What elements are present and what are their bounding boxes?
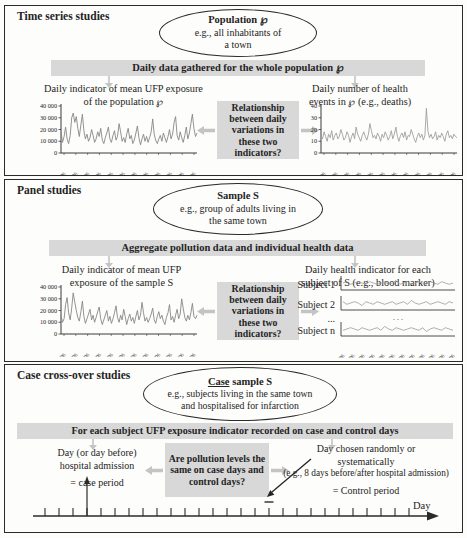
svg-text:30: 30 <box>311 114 317 121</box>
left-arrow-icon <box>196 306 216 317</box>
relationship-question-box: Relationship between daily variations in… <box>217 282 299 340</box>
svg-text:01/01/06: 01/01/06 <box>309 170 327 176</box>
svg-text:10: 10 <box>311 137 317 144</box>
population-ellipse: Population ℘ e.g., all inhabitants of a … <box>159 9 317 57</box>
svg-text:01/01/06: 01/01/06 <box>49 351 67 357</box>
svg-text:01/01/06: 01/01/06 <box>328 352 346 358</box>
svg-text:40 000: 40 000 <box>40 102 57 109</box>
ellipse-title: Population ℘ <box>160 14 316 27</box>
relationship-question-box: Relationship between daily variations in… <box>217 101 299 159</box>
ellipse-title: Case sample S <box>144 376 336 389</box>
svg-text:10 000: 10 000 <box>40 318 57 325</box>
svg-text:. . .: . . . <box>393 313 403 322</box>
panel-studies-section: Panel studies Sample S e.g., group of ad… <box>4 179 463 362</box>
svg-text:01/01/06: 01/01/06 <box>49 170 67 176</box>
ellipse-line: e.g., all inhabitants of <box>160 27 316 39</box>
section-title: Case cross-over studies <box>17 369 130 381</box>
svg-text:0: 0 <box>314 149 317 156</box>
day-timeline: Day <box>27 471 451 525</box>
svg-text:30 000: 30 000 <box>40 295 57 302</box>
subject-indicators-chart: Subject 1Subject 2.... . .Subject n01/01… <box>289 272 459 358</box>
aggregate-data-bar: Aggregate pollution data and individual … <box>49 240 426 256</box>
svg-text:40 000: 40 000 <box>40 283 57 290</box>
ellipse-line: e.g., group of adults living in <box>154 203 322 215</box>
data-gathered-bar: Daily data gathered for the whole popula… <box>51 60 425 76</box>
svg-text:20 000: 20 000 <box>40 307 57 314</box>
health-events-chart: 01020304001/01/0601/02/0601/03/0601/04/0… <box>303 102 461 176</box>
svg-text:0: 0 <box>54 330 57 337</box>
left-arrow-icon <box>196 125 216 136</box>
ellipse-title: Sample S <box>154 190 322 203</box>
svg-text:30 000: 30 000 <box>40 114 57 121</box>
ellipse-line: a town <box>160 39 316 51</box>
section-title: Time series studies <box>17 10 109 22</box>
svg-text:40: 40 <box>311 102 317 109</box>
ufp-exposure-chart: 010 00020 00030 00040 00001/01/0601/02/0… <box>29 102 201 176</box>
section-title: Panel studies <box>17 184 81 196</box>
svg-text:Subject 2: Subject 2 <box>298 299 336 310</box>
ellipse-line: the same town <box>154 215 322 227</box>
svg-text:20 000: 20 000 <box>40 126 57 133</box>
svg-text:0: 0 <box>54 149 57 156</box>
svg-text:Subject n: Subject n <box>298 325 336 336</box>
sample-ufp-chart: 010 00020 00030 00040 00001/01/0601/02/0… <box>29 283 201 357</box>
case-control-bar: For each subject UFP exposure indicator … <box>17 423 453 439</box>
svg-text:10 000: 10 000 <box>40 137 57 144</box>
svg-text:Day: Day <box>413 500 431 511</box>
sample-ellipse: Sample S e.g., group of adults living in… <box>153 183 323 235</box>
ellipse-line: e.g., subjects living in the same town <box>144 388 336 400</box>
case-crossover-section: Case cross-over studies Case sample S e.… <box>4 364 463 533</box>
time-series-section: Time series studies Population ℘ e.g., a… <box>4 5 463 176</box>
svg-text:20: 20 <box>311 126 317 133</box>
case-sample-ellipse: Case sample S e.g., subjects living in t… <box>143 367 337 421</box>
svg-text:Subject 1: Subject 1 <box>298 279 336 290</box>
ellipse-line: and hospitalised for infarction <box>144 400 336 412</box>
svg-text:...: ... <box>328 313 336 324</box>
